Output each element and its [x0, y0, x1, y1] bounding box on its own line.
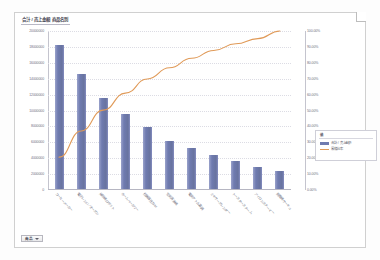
x-axis-label: 電子レンジ／オーブン — [76, 192, 99, 216]
x-axis-label: ミキサー ブレンダー — [209, 192, 231, 215]
y-axis-left-tick: 10000000 — [29, 109, 44, 113]
y-axis-right: 100.00%90.00%80.00%70.00%60.00%50.00%40.… — [305, 31, 345, 190]
y-axis-left: 2000000018000000160000001400000012000000… — [15, 31, 46, 190]
x-axis-label: ホームベーカリー — [120, 192, 139, 212]
y-axis-left-tick: 16000000 — [29, 61, 44, 65]
y-axis-left-tick: 20000000 — [29, 29, 44, 33]
chart-object[interactable]: 合計 / 売上金額 商品名別 2000000018000000160000001… — [14, 12, 366, 248]
legend-item-bar[interactable]: 合計 / 売上金額 — [319, 141, 373, 145]
y-axis-right-tick: 70.00% — [307, 77, 318, 81]
axis-line-category — [48, 189, 291, 190]
legend-item-line-label: 累積比率 — [331, 147, 343, 151]
y-axis-left-tick: 8000000 — [31, 124, 44, 128]
x-axis-label: 電気ケトル 温調 — [187, 192, 205, 210]
y-axis-right-tick: 100.00% — [307, 29, 320, 33]
legend-item-line[interactable]: 累積比率 — [319, 147, 373, 151]
chart-legend[interactable]: 値 合計 / 売上金額 累積比率 — [315, 130, 377, 161]
pivot-filter-button[interactable]: 商品 — [21, 235, 43, 242]
cumulative-line-series — [48, 31, 291, 190]
y-axis-right-tick: 0.00% — [307, 188, 316, 192]
y-axis-right-tick: 40.00% — [307, 124, 318, 128]
y-axis-left-tick: 14000000 — [29, 77, 44, 81]
x-axis-label: 炊飯器 圧力IH — [142, 192, 158, 209]
chart-title: 合計 / 売上金額 商品名別 — [21, 17, 70, 25]
legend-swatch-line-icon — [320, 149, 329, 150]
y-axis-left-tick: 6000000 — [31, 140, 44, 144]
y-axis-right-tick: 80.00% — [307, 61, 318, 65]
spreadsheet-canvas: 合計 / 売上金額 商品名別 2000000018000000160000001… — [0, 0, 380, 260]
x-axis-label: トースター スチーム — [231, 192, 253, 215]
y-axis-left-tick: 4000000 — [31, 156, 44, 160]
legend-title: 値 — [319, 133, 373, 139]
y-axis-left-tick: 12000000 — [29, 93, 44, 97]
legend-item-bar-label: 合計 / 売上金額 — [331, 141, 351, 145]
x-axis-label: 掃除機 ロボット — [98, 192, 116, 210]
pivot-filter-label: 商品 — [25, 237, 33, 241]
y-axis-right-tick: 90.00% — [307, 45, 318, 49]
y-axis-right-tick: 50.00% — [307, 109, 318, 113]
legend-swatch-bar-icon — [320, 142, 329, 145]
x-axis-label: 扇風機 サーキュ — [275, 192, 293, 210]
x-axis-labels: コーヒーメーカー電子レンジ／オーブン掃除機 ロボットホームベーカリー炊飯器 圧力… — [48, 192, 291, 240]
y-axis-right-tick: 10.00% — [307, 172, 318, 176]
plot-area — [48, 31, 291, 190]
x-axis-label: 空気清浄機 — [165, 192, 178, 206]
cumulative-line-path — [59, 31, 280, 157]
y-axis-right-tick: 60.00% — [307, 93, 318, 97]
y-axis-left-tick: 2000000 — [31, 172, 44, 176]
x-axis-label: アイロン スチーマー — [253, 192, 275, 215]
y-axis-left-tick: 18000000 — [29, 45, 44, 49]
x-axis-label: コーヒーメーカー — [54, 192, 73, 212]
y-axis-left-tick: 0 — [42, 188, 44, 192]
chevron-down-icon — [35, 238, 39, 240]
